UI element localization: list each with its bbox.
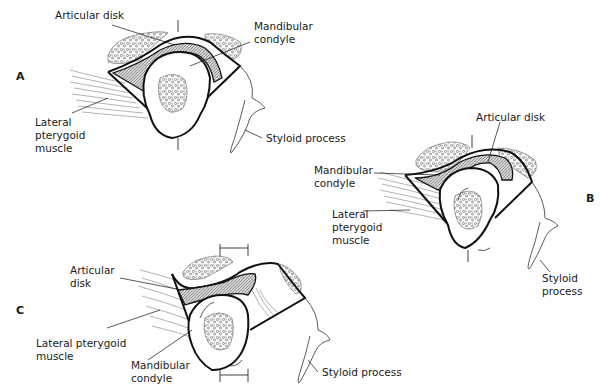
panel-c-letter: C	[16, 304, 24, 317]
panel-a-styloid-process-label: Styloid process	[266, 132, 346, 145]
panel-c-styloid-process-label: Styloid process	[322, 366, 402, 379]
panel-c-lateral-pterygoid-label: Lateral pterygoid muscle	[36, 337, 126, 363]
panel-b-drawing	[363, 122, 558, 272]
panel-a-articular-disk-label: Articular disk	[55, 9, 124, 22]
panel-b-letter: B	[586, 192, 594, 205]
panel-a-lateral-pterygoid-label: Lateral pterygoid muscle	[35, 116, 85, 155]
tmj-diagram	[0, 0, 601, 391]
panel-b-articular-disk-label: Articular disk	[476, 111, 545, 124]
panel-a-drawing	[70, 20, 265, 153]
panel-a-letter: A	[16, 70, 25, 83]
panel-b-lateral-pterygoid-label: Lateral pterygoid muscle	[332, 208, 382, 247]
panel-a-mandibular-condyle-label: Mandibular condyle	[254, 20, 313, 46]
panel-b-mandibular-condyle-label: Mandibular condyle	[314, 164, 373, 190]
panel-c-articular-disk-label: Articular disk	[70, 264, 115, 290]
panel-c-mandibular-condyle-label: Mandibular condyle	[131, 359, 190, 385]
panel-b-styloid-process-label: Styloid process	[542, 272, 582, 298]
